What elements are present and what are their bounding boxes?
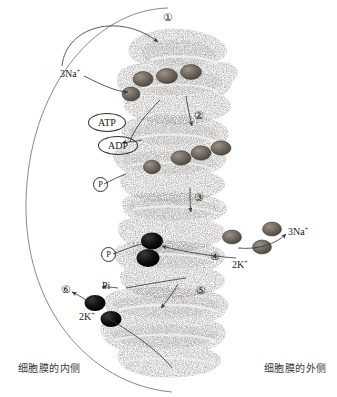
- step-marker-5: ⑤: [196, 285, 206, 296]
- label-potassium-inside-text: 2K: [79, 311, 91, 322]
- arrow-potassium-release: [72, 292, 86, 300]
- label-potassium-inside-charge: +: [91, 310, 95, 317]
- label-sodium-inside: 3Na+: [60, 68, 80, 79]
- step-marker-4: ④: [210, 251, 220, 262]
- label-sodium-outside: 3Na+: [288, 226, 308, 237]
- label-phosphate-upper: P: [93, 177, 108, 192]
- label-sodium-outside-text: 3Na: [288, 226, 305, 237]
- diagram-canvas: ① ② ③ ④ ⑤ ⑥ 3Na+ 3Na+ 2K+ 2K+ Pi ATP ADP…: [0, 0, 337, 397]
- label-sodium-inside-charge: +: [77, 67, 81, 74]
- label-membrane-inside: 细胞膜的内侧: [18, 364, 80, 374]
- label-inorganic-phosphate: Pi: [102, 281, 110, 291]
- pump-illustration: [0, 0, 337, 397]
- step-marker-1: ①: [163, 12, 173, 23]
- label-atp: ATP: [88, 113, 126, 132]
- step-marker-2: ②: [194, 110, 204, 121]
- label-sodium-inside-text: 3Na: [60, 68, 77, 79]
- label-potassium-outside-charge: +: [244, 258, 248, 265]
- label-sodium-outside-charge: +: [305, 225, 309, 232]
- protein-conformation-5: [101, 287, 229, 378]
- label-membrane-outside: 细胞膜的外侧: [264, 364, 326, 374]
- step-marker-6: ⑥: [61, 284, 71, 295]
- sodium-ion-group-exiting: [223, 222, 282, 254]
- label-phosphate-lower: P: [101, 247, 116, 262]
- step-marker-3: ③: [194, 192, 204, 203]
- label-adp: ADP: [98, 136, 138, 155]
- label-potassium-outside: 2K+: [232, 259, 248, 270]
- label-potassium-outside-text: 2K: [232, 259, 244, 270]
- label-potassium-inside: 2K+: [79, 311, 95, 322]
